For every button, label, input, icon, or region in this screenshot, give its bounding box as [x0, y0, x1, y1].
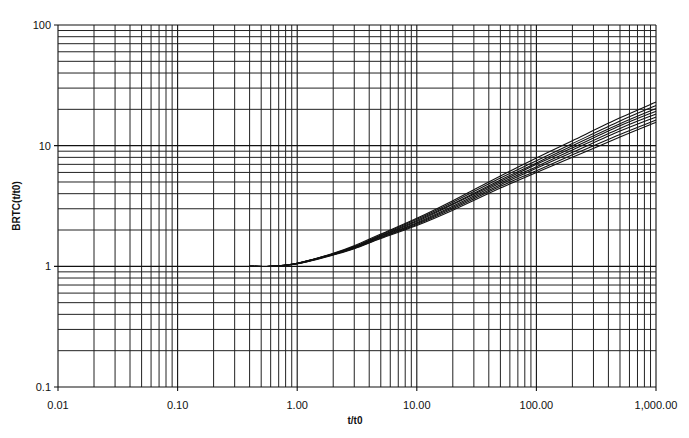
log-log-chart: 0.010.101.0010.00100.001,000.00 0.111010… — [0, 0, 689, 438]
x-tick-label: 0.10 — [167, 399, 188, 411]
x-tick-labels: 0.010.101.0010.00100.001,000.00 — [47, 399, 677, 411]
y-tick-labels: 0.1110100 — [33, 19, 51, 393]
y-axis-title: BRTC(t/t0) — [11, 181, 22, 230]
y-tick-label: 10 — [39, 140, 51, 152]
y-tick-label: 0.1 — [36, 381, 51, 393]
grid — [54, 25, 656, 391]
x-tick-label: 1,000.00 — [635, 399, 678, 411]
x-tick-label: 0.01 — [47, 399, 68, 411]
x-tick-label: 10.00 — [403, 399, 431, 411]
x-axis-title: t/t0 — [348, 415, 363, 426]
x-tick-label: 100.00 — [520, 399, 554, 411]
x-tick-label: 1.00 — [286, 399, 307, 411]
y-tick-label: 100 — [33, 19, 51, 31]
y-tick-label: 1 — [45, 260, 51, 272]
